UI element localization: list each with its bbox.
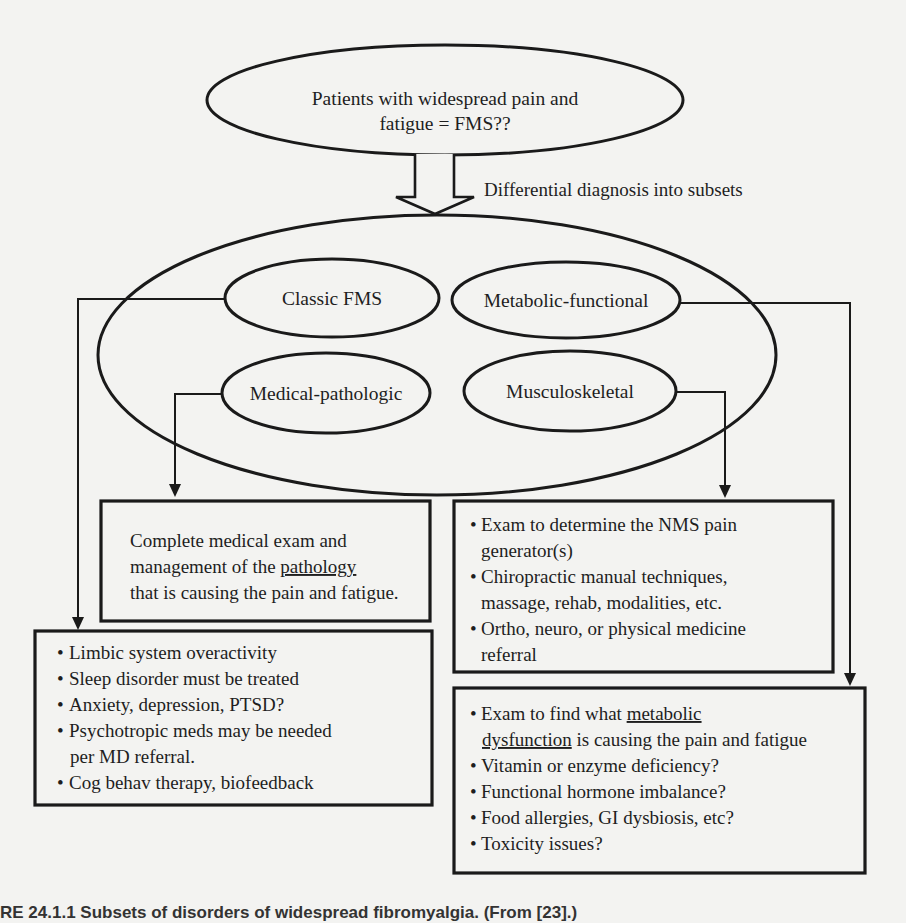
metabolic-bullet-1-line2: dysfunction is causing the pain and fati… bbox=[482, 729, 807, 750]
differential-diagnosis-label: Differential diagnosis into subsets bbox=[484, 179, 743, 200]
medical-box-line2: management of the pathology bbox=[130, 556, 357, 577]
classic-bullet-3: Anxiety, depression, PTSD? bbox=[69, 694, 284, 715]
metabolic-underlined: metabolic bbox=[627, 703, 702, 724]
classic-fms-label: Classic FMS bbox=[282, 288, 382, 309]
classic-bullet-2: Sleep disorder must be treated bbox=[69, 668, 300, 689]
subset-metabolic-functional: Metabolic-functional bbox=[452, 262, 680, 338]
pathology-underlined: pathology bbox=[280, 556, 356, 577]
classic-bullet-4-line1: Psychotropic meds may be needed bbox=[69, 720, 332, 741]
metabolic-bullet-4: Food allergies, GI dysbiosis, etc? bbox=[481, 807, 734, 828]
musculoskeletal-box: • Exam to determine the NMS pain generat… bbox=[454, 501, 833, 672]
nms-bullet-1-line1: Exam to determine the NMS pain bbox=[481, 514, 737, 535]
metabolic-bullet-5: Toxicity issues? bbox=[481, 833, 603, 854]
arrow-down-icon bbox=[719, 485, 731, 498]
bullet-icon: • bbox=[470, 514, 477, 535]
medical-box-line1: Complete medical exam and bbox=[130, 530, 347, 551]
subset-classic-fms: Classic FMS bbox=[225, 259, 439, 337]
connector-medical bbox=[175, 394, 222, 487]
differential-arrow: Differential diagnosis into subsets bbox=[396, 154, 743, 214]
metabolic-bullet-3: Functional hormone imbalance? bbox=[481, 781, 726, 802]
bullet-icon: • bbox=[57, 772, 64, 793]
bullet-icon: • bbox=[57, 642, 64, 663]
medical-pathologic-label: Medical-pathologic bbox=[250, 383, 403, 404]
arrow-down-icon bbox=[844, 673, 856, 686]
subset-medical-pathologic: Medical-pathologic bbox=[222, 353, 430, 433]
bullet-icon: • bbox=[470, 703, 477, 724]
nms-bullet-2-line2: massage, rehab, modalities, etc. bbox=[481, 592, 722, 613]
top-node: Patients with widespread pain and fatigu… bbox=[207, 45, 683, 155]
medical-pathologic-box: Complete medical exam and management of … bbox=[101, 501, 430, 621]
metabolic-functional-box: • Exam to find what metabolic dysfunctio… bbox=[454, 688, 865, 873]
figure-caption: RE 24.1.1 Subsets of disorders of widesp… bbox=[0, 903, 577, 923]
subset-musculoskeletal: Musculoskeletal bbox=[464, 351, 676, 431]
musculoskeletal-label: Musculoskeletal bbox=[506, 381, 634, 402]
arrow-down-icon bbox=[72, 617, 84, 630]
bullet-icon: • bbox=[57, 720, 64, 741]
classic-fms-box: • Limbic system overactivity • Sleep dis… bbox=[35, 631, 432, 805]
hollow-down-arrow-icon bbox=[396, 154, 474, 214]
top-node-line1: Patients with widespread pain and bbox=[312, 88, 579, 109]
metabolic-bullet-2: Vitamin or enzyme deficiency? bbox=[481, 755, 719, 776]
subsets-ellipse bbox=[98, 215, 776, 495]
nms-bullet-2-line1: Chiropractic manual techniques, bbox=[481, 566, 727, 587]
connector-musculoskeletal bbox=[676, 392, 725, 488]
bullet-icon: • bbox=[470, 566, 477, 587]
top-node-line2: fatigue = FMS?? bbox=[379, 113, 510, 134]
bullet-icon: • bbox=[470, 807, 477, 828]
dysfunction-underlined: dysfunction bbox=[482, 729, 572, 750]
classic-bullet-5: Cog behav therapy, biofeedback bbox=[69, 772, 314, 793]
nms-bullet-3-line2: referral bbox=[481, 644, 537, 665]
metabolic-functional-label: Metabolic-functional bbox=[484, 290, 649, 311]
metabolic-bullet-1-line1: Exam to find what metabolic bbox=[481, 703, 702, 724]
nms-bullet-3-line1: Ortho, neuro, or physical medicine bbox=[481, 618, 746, 639]
bullet-icon: • bbox=[470, 781, 477, 802]
bullet-icon: • bbox=[57, 668, 64, 689]
classic-bullet-4-line2: per MD referral. bbox=[70, 746, 195, 767]
classic-bullet-1: Limbic system overactivity bbox=[69, 642, 277, 663]
bullet-icon: • bbox=[57, 694, 64, 715]
nms-bullet-1-line2: generator(s) bbox=[481, 540, 573, 562]
bullet-icon: • bbox=[470, 618, 477, 639]
medical-box-line3: that is causing the pain and fatigue. bbox=[130, 582, 399, 603]
bullet-icon: • bbox=[470, 833, 477, 854]
arrow-down-icon bbox=[169, 484, 181, 497]
bullet-icon: • bbox=[470, 755, 477, 776]
